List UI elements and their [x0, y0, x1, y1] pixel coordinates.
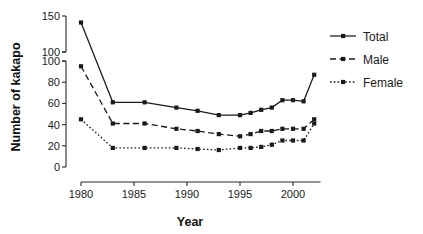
- data-point-male-1997: [259, 129, 263, 133]
- data-point-total-1997: [259, 108, 263, 112]
- data-point-total-1983: [111, 100, 115, 104]
- series-line-total: [81, 23, 314, 116]
- y-ticklabel-lower-20: 20: [48, 140, 60, 152]
- series-line-male: [81, 66, 314, 136]
- data-point-male-2000: [291, 127, 295, 131]
- x-axis-title: Year: [177, 215, 204, 229]
- data-point-total-2000: [291, 98, 295, 102]
- legend-label-female: Female: [363, 76, 403, 90]
- data-point-total-1991: [196, 109, 200, 113]
- data-point-male-1989: [174, 127, 178, 131]
- data-point-male-1999: [280, 127, 284, 131]
- data-point-male-1986: [143, 121, 147, 125]
- legend-marker-female: [341, 80, 345, 84]
- legend: TotalMaleFemale: [330, 30, 403, 90]
- data-point-female-1997: [259, 145, 263, 149]
- y-ticklabel-lower-0: 0: [54, 161, 60, 173]
- data-point-female-1983: [111, 146, 115, 150]
- data-point-male-1983: [111, 121, 115, 125]
- legend-marker-total: [341, 34, 345, 38]
- legend-label-male: Male: [363, 53, 389, 67]
- data-point-female-1996: [249, 146, 253, 150]
- data-point-total-1989: [174, 106, 178, 110]
- x-ticklabel-1985: 1985: [122, 188, 146, 200]
- data-point-total-1995: [238, 113, 242, 117]
- data-point-total-2001: [302, 99, 306, 103]
- data-point-male-2002: [312, 117, 316, 121]
- data-point-female-1986: [143, 146, 147, 150]
- data-point-male-1991: [196, 129, 200, 133]
- data-point-male-1996: [249, 132, 253, 136]
- data-point-male-1980: [79, 64, 83, 68]
- x-ticklabel-1980: 1980: [69, 188, 93, 200]
- data-point-female-1991: [196, 147, 200, 151]
- data-point-total-2002: [312, 73, 316, 77]
- axes-group: 02040608010010015019801985199019952000: [42, 10, 321, 200]
- data-point-female-1998: [270, 143, 274, 147]
- kakapo-population-chart: 02040608010010015019801985199019952000Nu…: [0, 0, 423, 234]
- data-point-female-1995: [238, 146, 242, 150]
- y-axis-title: Number of kakapo: [9, 42, 23, 151]
- data-point-total-1993: [217, 113, 221, 117]
- y-ticklabel-lower-80: 80: [48, 76, 60, 88]
- data-point-total-1986: [143, 100, 147, 104]
- data-point-total-1998: [270, 106, 274, 110]
- legend-label-total: Total: [363, 30, 388, 44]
- data-point-male-1993: [217, 132, 221, 136]
- y-ticklabel-lower-60: 60: [48, 97, 60, 109]
- x-ticklabel-1995: 1995: [228, 188, 252, 200]
- axis-break-gap: [65, 53, 365, 60]
- legend-marker-male: [341, 57, 345, 61]
- x-ticklabel-2000: 2000: [281, 188, 305, 200]
- legend-item-total: Total: [330, 30, 388, 44]
- y-ticklabel-upper-150: 150: [42, 10, 60, 22]
- data-point-female-2001: [302, 138, 306, 142]
- data-point-male-1998: [270, 129, 274, 133]
- chart-canvas: 02040608010010015019801985199019952000Nu…: [0, 0, 423, 234]
- legend-item-female: Female: [330, 76, 403, 90]
- data-point-female-2002: [312, 121, 316, 125]
- data-point-total-1996: [249, 111, 253, 115]
- data-point-total-1999: [280, 98, 284, 102]
- y-ticklabel-lower-40: 40: [48, 119, 60, 131]
- data-point-female-1993: [217, 148, 221, 152]
- x-ticklabel-1990: 1990: [175, 188, 199, 200]
- data-point-male-2001: [302, 127, 306, 131]
- data-point-female-2000: [291, 138, 295, 142]
- data-point-total-1980: [79, 20, 83, 24]
- data-point-female-1999: [280, 138, 284, 142]
- data-point-male-1995: [238, 134, 242, 138]
- series-group: [79, 20, 316, 152]
- data-point-female-1980: [79, 117, 83, 121]
- data-point-female-1989: [174, 146, 178, 150]
- series-total: [79, 20, 316, 117]
- y-ticklabel-upper-100: 100: [42, 46, 60, 58]
